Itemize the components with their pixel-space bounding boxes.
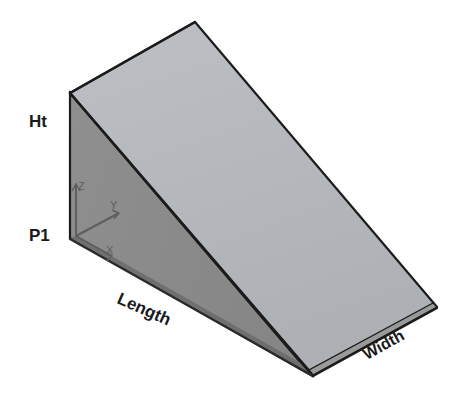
axis-y-label: Y xyxy=(110,199,118,211)
height-dimension-label: Ht xyxy=(29,112,47,132)
axis-x-label: X xyxy=(106,244,114,256)
diagram-canvas: Z Y X Ht P1 Length Width xyxy=(0,0,470,402)
axis-z-label: Z xyxy=(78,180,85,192)
origin-point-label: P1 xyxy=(29,226,50,246)
